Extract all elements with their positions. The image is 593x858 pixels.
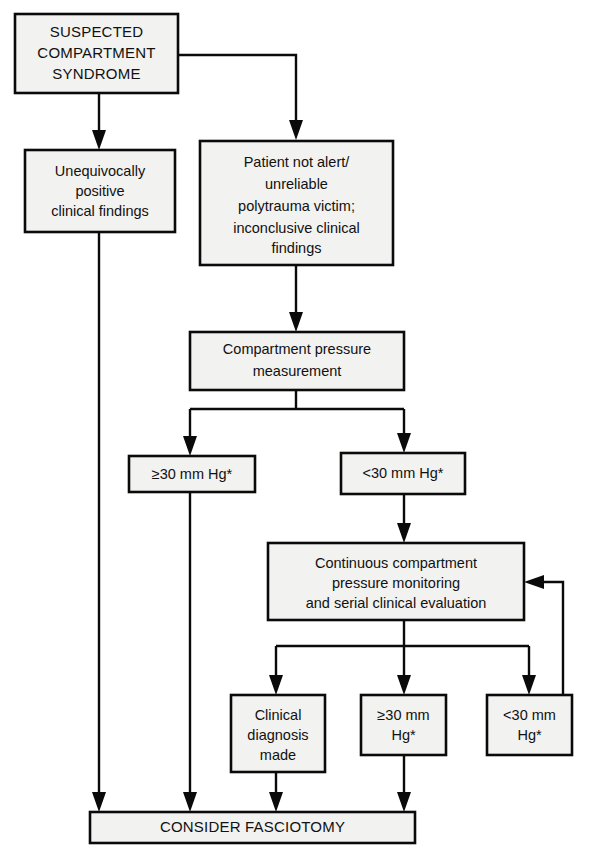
arrowhead-icon [269,792,283,812]
node-not-alert-line-3: inconclusive clinical [233,220,360,236]
node-unequivocal-line-1: positive [75,183,124,199]
node-clinical-dx-line-2: made [260,747,296,763]
node-suspected-line-1: COMPARTMENT [37,44,155,61]
edge-measurement-split [183,390,411,456]
node-ge30-upper-label: ≥30 mm Hg* [152,466,233,482]
node-ge30-lower-line-0: ≥30 mm [377,707,429,723]
node-ge30-lower-line-1: Hg* [391,727,416,743]
node-lt30-mmhg-lower[interactable]: <30 mm Hg* [487,695,572,755]
edge-not-alert-to-measurement [289,265,303,332]
arrowhead-icon [397,523,411,543]
arrowhead-icon [397,675,411,695]
node-continuous-line-2: and serial clinical evaluation [306,595,487,611]
node-unequivocal-line-0: Unequivocally [55,163,146,179]
arrowhead-icon [92,130,106,150]
node-ge30-mmhg-lower[interactable]: ≥30 mm Hg* [361,695,446,755]
node-not-alert-line-2: polytrauma victim; [238,198,355,214]
node-lt30-mmhg-upper[interactable]: <30 mm Hg* [341,453,465,494]
arrowhead-icon [524,575,544,589]
node-suspected-line-2: SYNDROME [52,65,140,82]
node-unequivocal-line-2: clinical findings [51,203,149,219]
node-lt30-lower-line-0: <30 mm [503,707,556,723]
node-lt30-upper-label: <30 mm Hg* [363,465,444,481]
node-clinical-diagnosis-made[interactable]: Clinical diagnosis made [231,695,325,772]
edge-suspected-to-unequivocal [92,93,106,150]
edge-clinicaldx-to-fasciotomy [269,772,283,812]
node-suspected-line-0: SUSPECTED [50,23,144,40]
node-patient-not-alert[interactable]: Patient not alert/ unreliable polytrauma… [200,141,393,265]
node-continuous-line-0: Continuous compartment [315,555,477,571]
compartment-syndrome-flowchart: SUSPECTED COMPARTMENT SYNDROME Unequivoc… [0,0,593,858]
arrowhead-icon [183,436,197,456]
node-consider-fasciotomy[interactable]: CONSIDER FASCIOTOMY [90,812,415,843]
arrowhead-icon [289,312,303,332]
edge-ge30lower-to-fasciotomy [397,755,411,812]
arrowhead-icon [183,792,197,812]
node-continuous-line-1: pressure monitoring [332,575,460,591]
arrowhead-icon [92,792,106,812]
node-suspected-compartment-syndrome[interactable]: SUSPECTED COMPARTMENT SYNDROME [15,14,178,93]
node-unequivocally-positive-clinical-findings[interactable]: Unequivocally positive clinical findings [25,150,175,232]
edge-lt30upper-to-continuous [397,494,411,543]
node-compartment-pressure-measurement[interactable]: Compartment pressure measurement [190,332,404,390]
edge-suspected-to-not-alert [178,55,303,140]
edge-continuous-three-way-split [269,620,536,695]
node-not-alert-line-1: unreliable [265,176,328,192]
node-measurement-line-1: measurement [253,363,342,379]
node-clinical-dx-line-0: Clinical [255,707,302,723]
arrowhead-icon [269,675,283,695]
arrowhead-icon [289,120,303,140]
edge-unequivocal-to-fasciotomy [92,232,106,812]
arrowhead-icon [522,675,536,695]
node-lt30-lower-line-1: Hg* [517,727,542,743]
arrowhead-icon [397,433,411,453]
arrowhead-icon [397,792,411,812]
node-clinical-dx-line-1: diagnosis [247,727,308,743]
edge-ge30upper-to-fasciotomy [183,492,197,812]
node-not-alert-line-0: Patient not alert/ [244,154,351,170]
node-continuous-monitoring[interactable]: Continuous compartment pressure monitori… [268,543,524,620]
node-measurement-line-0: Compartment pressure [223,341,371,357]
node-fasciotomy-label: CONSIDER FASCIOTOMY [160,818,345,835]
node-ge30-mmhg-upper[interactable]: ≥30 mm Hg* [129,456,255,492]
node-not-alert-line-4: findings [272,240,322,256]
